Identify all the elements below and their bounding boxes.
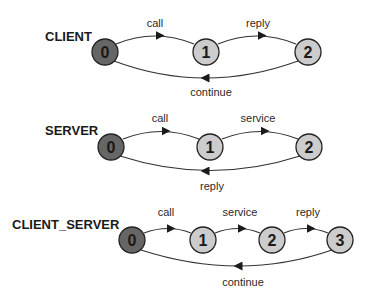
state-2-label: 2 [305,139,314,156]
client-server-diagram: CLIENT_SERVER call service reply continu… [12,206,353,288]
edge-label-call: call [158,206,175,218]
client-diagram: CLIENT call reply continue 0 1 2 [45,17,321,98]
server-title: SERVER [45,123,99,138]
edge-label-reply: reply [200,180,224,192]
edge-continue [141,250,332,266]
server-diagram: SERVER call service reply 0 1 2 [45,112,322,192]
state-0-label: 0 [107,139,116,156]
state-0-label: 0 [101,44,110,61]
edge-service [222,132,298,140]
state-1-label: 1 [202,44,211,61]
state-3-label: 3 [336,232,345,249]
edge-service [215,229,260,234]
edge-label-continue: continue [190,86,232,98]
state-2-label: 2 [304,44,313,61]
state-0-label: 0 [128,232,137,249]
edge-label-call: call [147,17,164,29]
edge-call [116,36,194,44]
client-server-title: CLIENT_SERVER [12,217,120,232]
edge-label-call: call [152,112,169,124]
edge-label-reply: reply [296,206,320,218]
edge-reply [218,36,296,44]
state-1-label: 1 [206,139,215,156]
edge-label-continue: continue [222,276,264,288]
edge-label-reply: reply [246,17,270,29]
lts-diagrams: CLIENT call reply continue 0 1 2 SERVER … [0,0,369,301]
edge-call [144,229,191,234]
edge-reply [284,229,328,234]
edge-label-service: service [223,206,258,218]
state-1-label: 1 [199,232,208,249]
edge-call [123,132,199,140]
state-2-label: 2 [268,232,277,249]
client-title: CLIENT [45,29,92,44]
edge-label-service: service [241,112,276,124]
